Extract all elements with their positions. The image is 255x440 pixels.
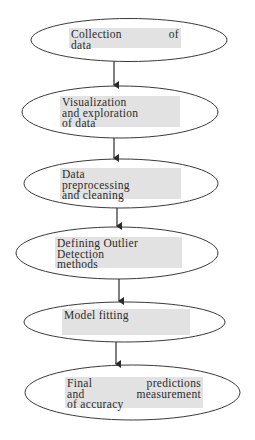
node-label-line: Collection of bbox=[71, 29, 179, 40]
node-label-line: Visualization bbox=[62, 97, 178, 108]
flowchart-shapes bbox=[0, 0, 255, 440]
node-label-line: Defining Outlier bbox=[57, 238, 180, 249]
node-label-final-predictions: Final predictions and measurement of acc… bbox=[65, 377, 203, 408]
node-label-line: Model fitting bbox=[64, 310, 188, 321]
node-label-line: Data bbox=[62, 169, 179, 180]
node-label-line: methods bbox=[57, 259, 180, 270]
node-label-line: Final predictions bbox=[67, 378, 201, 389]
node-label-model-fitting: Model fitting bbox=[62, 309, 190, 335]
node-label-preprocessing: Data preprocessing and cleaning bbox=[60, 168, 181, 199]
node-label-line: and cleaning bbox=[62, 190, 179, 201]
node-label-line: of accuracy bbox=[67, 399, 201, 410]
node-label-outlier-detection: Defining Outlier Detection methods bbox=[55, 237, 182, 268]
node-label-line: of data bbox=[62, 118, 178, 129]
node-label-line: data bbox=[71, 40, 179, 51]
node-label-collection: Collection of data bbox=[69, 28, 181, 48]
flowchart: Collection of data Visualization and exp… bbox=[0, 0, 255, 440]
node-label-visualization: Visualization and exploration of data bbox=[60, 96, 180, 127]
